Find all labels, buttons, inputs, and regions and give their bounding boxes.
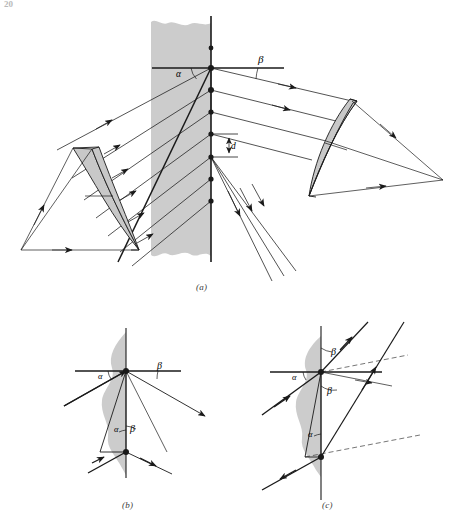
plate-medium-c [296,336,321,477]
alpha-arc-b [108,371,111,379]
panel-b: α β α β [64,328,205,478]
beta-arc-a [256,68,258,79]
alpha-label-c-bottom: α [308,429,313,439]
caption-panel-b: (b) [122,500,133,510]
panel-a: α β [21,16,443,281]
beta-arc-b [157,371,158,379]
beta-label-c-upper: β [330,346,336,357]
figure-root: 20 α [0,0,457,525]
panel-c: α β β [262,322,420,500]
plate-medium-a [151,21,211,256]
escaping-rays-a [211,157,296,281]
optics-figure-svg: α β [0,0,457,525]
thickness-label-d: d [231,141,236,151]
caption-panel-a: (a) [196,282,207,292]
alpha-arc-c [303,372,306,380]
alpha-label-c-top: α [292,372,297,382]
rays-c [262,322,420,490]
caption-panel-c: (c) [322,500,333,510]
alpha-label-b-bottom: α [114,424,119,434]
alpha-label-b-top: α [98,371,103,381]
beta-label-b-bottom: β [129,423,135,434]
page-number: 20 [4,0,13,9]
beta-label-a: β [257,53,264,65]
emergent-beam-arrows-a [272,84,296,110]
rays-c-arrows [274,337,376,479]
beta-label-b-top: β [156,360,162,371]
left-source-arrows-a [34,205,72,250]
escaping-rays-arrows-a [228,184,264,216]
right-lens-a [309,99,357,197]
beta-label-c-lower: β [326,385,332,396]
